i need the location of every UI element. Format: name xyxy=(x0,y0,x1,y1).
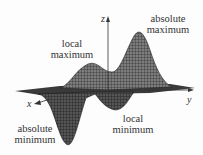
z-axis-arrow xyxy=(106,16,110,22)
absolute-minimum-label: absolute minimum xyxy=(12,123,58,145)
y-axis-arrow xyxy=(188,88,194,92)
x-axis-label: x xyxy=(27,98,31,109)
y-axis-label: y xyxy=(187,94,191,105)
extrema-surface-diagram: z y x absolute maximum local maximum loc… xyxy=(0,0,203,155)
x-axis-arrow xyxy=(34,100,41,105)
z-axis-label: z xyxy=(101,13,105,24)
local-maximum-label: local maximum xyxy=(48,38,96,60)
local-minimum-label: local minimum xyxy=(110,113,156,135)
absolute-maximum-label: absolute maximum xyxy=(143,13,193,35)
